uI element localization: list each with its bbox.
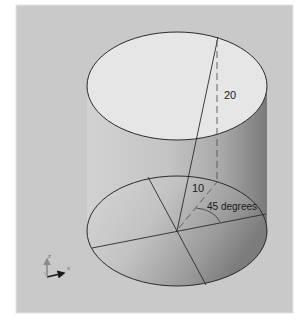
radius-label: 10: [192, 182, 204, 194]
x-axis-label: x: [67, 265, 70, 271]
height-label: 20: [224, 89, 236, 101]
diagram-canvas: 20 10 45 degrees z x: [0, 0, 305, 325]
angle-label: 45 degrees: [207, 200, 257, 212]
cylinder-top-face: [87, 32, 267, 140]
z-axis-label: z: [48, 253, 51, 259]
